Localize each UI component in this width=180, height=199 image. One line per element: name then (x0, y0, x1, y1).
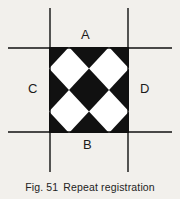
figure-caption: Fig. 51Repeat registration (0, 181, 180, 193)
diamond-checker-pattern (49, 47, 129, 133)
registration-diagram (0, 0, 180, 199)
label-d: D (140, 82, 150, 95)
label-b: B (83, 138, 92, 151)
label-a: A (81, 28, 90, 41)
figure-repeat-registration: A B C D Fig. 51Repeat registration (0, 0, 180, 199)
figure-caption-number: Fig. 51 (25, 181, 58, 193)
figure-caption-text: Repeat registration (63, 181, 155, 193)
label-c: C (28, 82, 38, 95)
